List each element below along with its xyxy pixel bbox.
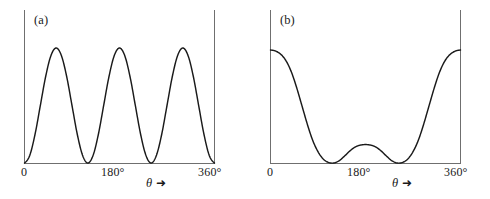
panel-a-theta-symbol: θ (146, 176, 152, 190)
panel-b-x-axis-label: θ➜ (392, 176, 412, 191)
panel-b-curve (271, 50, 461, 163)
panel-a-curve (25, 48, 215, 163)
panel-a-x-axis-label: θ➜ (146, 176, 166, 191)
panel-b-theta-symbol: θ (392, 176, 398, 190)
panel-b-xtick-0: 0 (267, 165, 273, 180)
chart-panel-a: (a) 0 180° 360° θ➜ (0, 0, 245, 199)
panel-a-tag: (a) (34, 13, 48, 28)
panel-a-xtick-180: 180° (101, 165, 125, 180)
panel-b-xtick-180: 180° (347, 165, 371, 180)
panel-b-tag: (b) (280, 13, 295, 28)
panel-b-xtick-360: 360° (444, 165, 468, 180)
chart-panel-b: (b) 0 180° 360° θ➜ (245, 0, 490, 199)
panel-b-arrow-icon: ➜ (402, 176, 412, 191)
panel-a-xtick-0: 0 (21, 165, 27, 180)
panel-a-arrow-icon: ➜ (156, 176, 166, 191)
panel-a-xtick-360: 360° (198, 165, 222, 180)
figure-root: (a) 0 180° 360° θ➜ (b) 0 180° 360° θ➜ (0, 0, 490, 199)
